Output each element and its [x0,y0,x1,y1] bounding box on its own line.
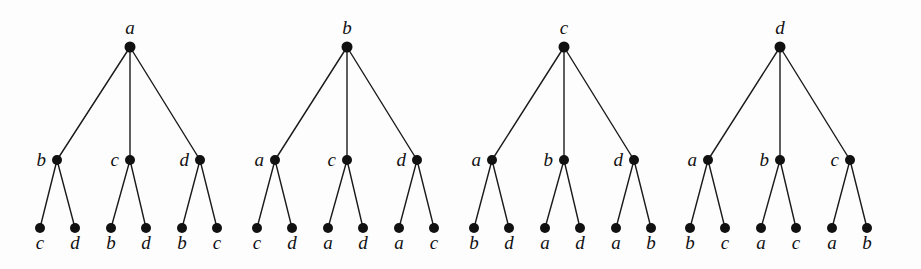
edge-child-1-to-leaf-2 [492,160,509,228]
internal-node [629,155,639,165]
edge-child-3-to-leaf-1 [399,160,417,228]
edge-child-3-to-leaf-1 [616,160,634,228]
edge-root-to-child-1 [492,47,564,160]
internal-node-label: b [760,149,770,170]
edge-child-3-to-leaf-2 [417,160,434,228]
edge-root-to-child-3 [347,47,417,160]
edge-root-to-child-1 [57,47,130,160]
edge-child-1-to-leaf-2 [275,160,292,228]
root-node [559,42,570,53]
leaf-node-label: d [287,232,297,253]
internal-node [52,155,62,165]
root-node [125,42,136,53]
leaf-node-label: c [213,232,222,253]
leaf-node-label: a [323,232,333,253]
root-node-label: c [560,17,569,38]
internal-node [195,155,205,165]
internal-node-label: d [180,149,190,170]
root-node [775,42,786,53]
edge-root-to-child-3 [564,47,634,160]
internal-node-label: a [688,149,698,170]
leaf-node-label: b [177,232,187,253]
edge-child-2-to-leaf-1 [328,160,347,228]
edge-child-3-to-leaf-2 [634,160,651,228]
internal-node [412,155,422,165]
leaf-node-label: d [575,232,585,253]
leaf-node-label: b [469,232,479,253]
edge-child-1-to-leaf-1 [257,160,275,228]
root-node-label: d [775,17,785,38]
edge-root-to-child-1 [275,47,347,160]
tree-3: bdadababdc [469,17,656,253]
internal-node [845,155,855,165]
leaf-node-label: b [685,232,695,253]
leaf-node-label: a [540,232,550,253]
leaf-node-label: a [756,232,766,253]
tree-diagram-figure: cdbdbcbcdacdadacacdbbdadababdcbcacababcd [0,0,921,269]
leaf-node-label: d [70,232,80,253]
root-node-label: b [342,17,352,38]
internal-node-label: b [544,149,554,170]
internal-node [703,155,713,165]
edge-child-3-to-leaf-2 [200,160,217,228]
internal-node [270,155,280,165]
internal-node [487,155,497,165]
tree-diagram-canvas: cdbdbcbcdacdadacacdbbdadababdcbcacababcd [0,0,921,269]
edge-root-to-child-3 [780,47,850,160]
internal-node-label: d [614,149,624,170]
edge-child-1-to-leaf-1 [474,160,492,228]
internal-node-label: a [255,149,265,170]
leaf-node-label: c [792,232,801,253]
internal-node [559,155,569,165]
leaf-node-label: c [430,232,439,253]
edge-child-3-to-leaf-1 [832,160,850,228]
edge-child-1-to-leaf-2 [708,160,725,228]
leaf-node-label: c [721,232,730,253]
internal-node [125,155,135,165]
internal-node-label: c [328,149,337,170]
edge-root-to-child-1 [708,47,780,160]
leaf-node-label: a [394,232,404,253]
leaf-node-label: a [611,232,621,253]
internal-node-label: b [37,149,47,170]
internal-node-label: d [397,149,407,170]
internal-node [342,155,352,165]
tree-4: bcacababcd [685,17,872,253]
leaf-node-label: d [141,232,151,253]
edge-child-1-to-leaf-1 [690,160,708,228]
edge-child-2-to-leaf-1 [761,160,780,228]
internal-node-label: c [831,149,840,170]
edge-child-1-to-leaf-1 [40,160,57,228]
edge-child-2-to-leaf-2 [564,160,580,228]
edge-child-3-to-leaf-2 [850,160,867,228]
root-node-label: a [125,17,135,38]
edge-child-2-to-leaf-1 [111,160,130,228]
edge-child-2-to-leaf-2 [347,160,363,228]
leaf-node-label: c [253,232,262,253]
edge-root-to-child-3 [130,47,200,160]
root-node [342,42,353,53]
tree-2: cdadacacdb [252,17,439,253]
edge-child-2-to-leaf-1 [545,160,564,228]
edge-child-2-to-leaf-2 [780,160,796,228]
leaf-node-label: d [358,232,368,253]
leaf-node-label: a [827,232,837,253]
edge-child-2-to-leaf-2 [130,160,146,228]
leaf-node-label: b [106,232,116,253]
edge-child-1-to-leaf-2 [57,160,75,228]
internal-node [775,155,785,165]
tree-1: cdbdbcbcda [35,17,222,253]
internal-node-label: c [111,149,120,170]
leaf-node-label: c [36,232,45,253]
leaf-node-label: b [862,232,872,253]
edge-child-3-to-leaf-1 [182,160,200,228]
leaf-node-label: b [646,232,656,253]
internal-node-label: a [472,149,482,170]
leaf-node-label: d [504,232,514,253]
